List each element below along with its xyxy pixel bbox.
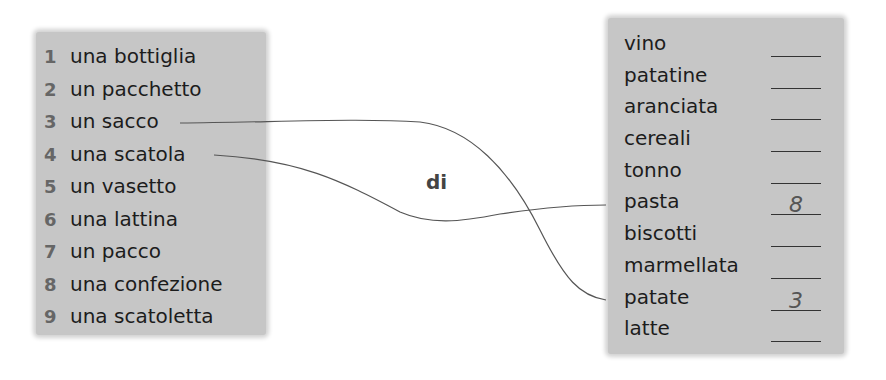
item-number: 4 xyxy=(44,139,70,172)
foods-list: vino patatine aranciata cereali tonno pa… xyxy=(624,28,824,345)
food-item: tonno xyxy=(624,155,824,187)
answer-blank[interactable] xyxy=(771,278,821,279)
container-label: una lattina xyxy=(70,207,178,231)
container-label: una bottiglia xyxy=(70,44,196,68)
food-label: pasta xyxy=(624,189,679,213)
answer-value: 3 xyxy=(771,285,821,317)
food-label: patatine xyxy=(624,63,707,87)
answer-blank[interactable] xyxy=(771,88,821,89)
container-item[interactable]: 3un sacco xyxy=(44,105,223,138)
food-label: marmellata xyxy=(624,253,739,277)
food-label: tonno xyxy=(624,158,682,182)
food-label: patate xyxy=(624,285,689,309)
food-item: pasta8 xyxy=(624,186,824,218)
connection-line-scatola-pasta xyxy=(214,155,606,221)
item-number: 6 xyxy=(44,204,70,237)
container-item[interactable]: 6una lattina xyxy=(44,203,223,236)
food-item: biscotti xyxy=(624,218,824,250)
food-label: aranciata xyxy=(624,94,718,118)
item-number: 3 xyxy=(44,106,70,139)
food-item: vino xyxy=(624,28,824,60)
food-item: patatine xyxy=(624,60,824,92)
food-label: latte xyxy=(624,316,670,340)
container-item[interactable]: 5un vasetto xyxy=(44,170,223,203)
food-item: cereali xyxy=(624,123,824,155)
food-label: vino xyxy=(624,31,666,55)
food-label: cereali xyxy=(624,126,691,150)
container-label: una scatola xyxy=(70,142,186,166)
food-item: marmellata xyxy=(624,250,824,282)
container-label: un pacco xyxy=(70,239,161,263)
item-number: 1 xyxy=(44,41,70,74)
item-number: 8 xyxy=(44,269,70,302)
answer-blank[interactable] xyxy=(771,246,821,247)
answer-blank[interactable] xyxy=(771,56,821,57)
container-item[interactable]: 4una scatola xyxy=(44,138,223,171)
answer-blank[interactable] xyxy=(771,310,821,311)
answer-blank[interactable] xyxy=(771,214,821,215)
food-item: aranciata xyxy=(624,91,824,123)
container-label: un sacco xyxy=(70,109,159,133)
item-number: 7 xyxy=(44,236,70,269)
answer-blank[interactable] xyxy=(771,183,821,184)
food-item: patate3 xyxy=(624,282,824,314)
container-item[interactable]: 9una scatoletta xyxy=(44,300,223,333)
container-label: una scatoletta xyxy=(70,304,214,328)
item-number: 5 xyxy=(44,171,70,204)
answer-blank[interactable] xyxy=(771,119,821,120)
container-label: un vasetto xyxy=(70,174,176,198)
containers-list: 1una bottiglia 2un pacchetto 3un sacco 4… xyxy=(44,40,223,333)
answer-blank[interactable] xyxy=(771,151,821,152)
item-number: 9 xyxy=(44,301,70,334)
container-item[interactable]: 2un pacchetto xyxy=(44,73,223,106)
container-item[interactable]: 1una bottiglia xyxy=(44,40,223,73)
food-label: biscotti xyxy=(624,221,697,245)
answer-value: 8 xyxy=(771,189,821,221)
container-label: una confezione xyxy=(70,272,223,296)
item-number: 2 xyxy=(44,74,70,107)
container-item[interactable]: 8una confezione xyxy=(44,268,223,301)
container-label: un pacchetto xyxy=(70,77,202,101)
container-item[interactable]: 7un pacco xyxy=(44,235,223,268)
connector-word: di xyxy=(426,170,447,194)
food-item: latte xyxy=(624,313,824,345)
answer-blank[interactable] xyxy=(771,341,821,342)
